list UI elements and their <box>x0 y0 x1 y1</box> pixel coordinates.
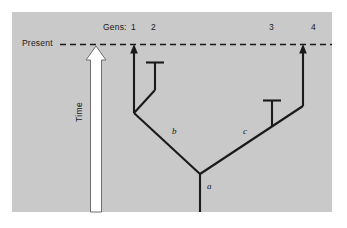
branch-c <box>200 106 303 174</box>
gen1-arrowhead-icon <box>130 44 138 54</box>
node-label-c: c <box>243 126 247 136</box>
time-axis-label: Time <box>74 102 84 122</box>
gens-label: Gens: <box>103 22 127 32</box>
gen-number-2: 2 <box>151 22 156 32</box>
figure-root: Present Gens: 1 2 3 4 Time a b c <box>0 0 347 228</box>
gen4-arrowhead-icon <box>299 44 307 54</box>
node-label-b: b <box>172 126 177 136</box>
branch-b <box>134 113 200 174</box>
gen-number-3: 3 <box>269 22 274 32</box>
branch-gen2-diagonal <box>134 90 155 113</box>
node-label-a: a <box>207 181 212 191</box>
gen-number-1: 1 <box>131 22 136 32</box>
time-arrow-shape <box>86 46 106 212</box>
present-label: Present <box>22 38 53 48</box>
gen-number-4: 4 <box>311 22 316 32</box>
phylogeny-diagram-svg <box>0 0 347 228</box>
